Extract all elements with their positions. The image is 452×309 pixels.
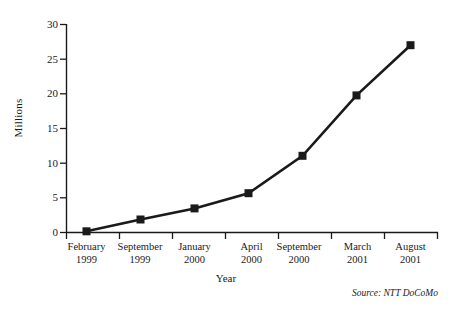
x-tick-label-line2: 2001 xyxy=(377,254,444,267)
data-point-marker xyxy=(137,216,145,224)
data-point-marker xyxy=(299,152,307,160)
data-point-marker xyxy=(353,91,361,99)
x-axis-title: Year xyxy=(0,272,452,284)
x-tick-label-line1: August xyxy=(377,241,444,254)
data-point-marker xyxy=(191,204,199,212)
line-chart-figure: Millions 30 25 20 15 10 5 0 xyxy=(0,0,452,309)
data-point-markers xyxy=(83,41,415,235)
y-axis-ticks xyxy=(60,25,66,233)
data-series-line xyxy=(87,45,411,231)
data-point-marker xyxy=(83,227,91,235)
source-note: Source: NTT DoCoMo xyxy=(352,288,438,298)
data-point-marker xyxy=(407,41,415,49)
data-point-marker xyxy=(245,189,253,197)
x-tick-label-august-2001: August 2001 xyxy=(377,241,444,266)
